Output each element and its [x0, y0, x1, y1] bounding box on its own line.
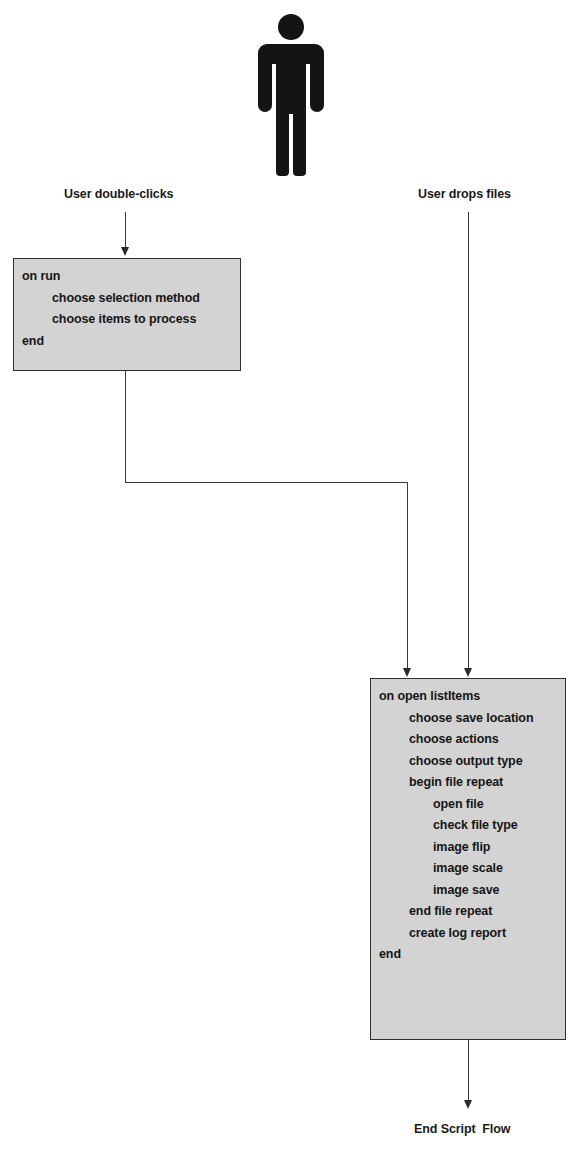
code-line: end: [14, 331, 240, 353]
code-line: open file: [371, 794, 565, 816]
code-line: choose actions: [371, 729, 565, 751]
code-line: choose save location: [371, 708, 565, 730]
connector-run-to-open-segment-down: [125, 371, 126, 483]
diagram-canvas: User double-clicks User drops files on r…: [0, 0, 582, 1158]
person-left-arm: [258, 52, 272, 112]
code-line: on run: [14, 266, 240, 288]
person-icon: [258, 14, 324, 176]
connector-double-click-line: [125, 212, 126, 248]
code-box-on-run-lines: on run choose selection method choose it…: [14, 259, 240, 359]
connector-run-to-open-segment-down2: [407, 482, 408, 670]
connector-drop-files-line: [468, 212, 469, 670]
code-line: image flip: [371, 837, 565, 859]
code-line: begin file repeat: [371, 772, 565, 794]
connector-end-line: [468, 1040, 469, 1102]
code-line: on open listItems: [371, 686, 565, 708]
connector-run-to-open-segment-right: [125, 482, 408, 483]
person-right-leg: [293, 106, 306, 176]
code-line: create log report: [371, 923, 565, 945]
label-end-script-flow: End Script Flow: [414, 1122, 510, 1136]
connector-end-arrowhead: [464, 1100, 472, 1109]
code-line: choose output type: [371, 751, 565, 773]
code-line: end: [371, 944, 565, 966]
code-line: image scale: [371, 858, 565, 880]
code-line: choose selection method: [14, 288, 240, 310]
code-line: end file repeat: [371, 901, 565, 923]
connector-double-click-arrowhead: [121, 247, 129, 256]
code-box-on-run: on run choose selection method choose it…: [13, 258, 241, 371]
code-line: choose items to process: [14, 309, 240, 331]
code-line: check file type: [371, 815, 565, 837]
person-right-arm: [310, 52, 324, 112]
code-box-on-open: on open listItems choose save location c…: [370, 678, 566, 1040]
person-left-leg: [276, 106, 289, 176]
label-user-drops-files: User drops files: [418, 187, 511, 201]
connector-run-to-open-arrowhead: [403, 668, 411, 677]
person-head: [278, 14, 304, 40]
code-line: image save: [371, 880, 565, 902]
code-box-on-open-lines: on open listItems choose save location c…: [371, 679, 565, 973]
label-user-double-clicks: User double-clicks: [64, 187, 173, 201]
connector-drop-files-arrowhead: [464, 668, 472, 677]
